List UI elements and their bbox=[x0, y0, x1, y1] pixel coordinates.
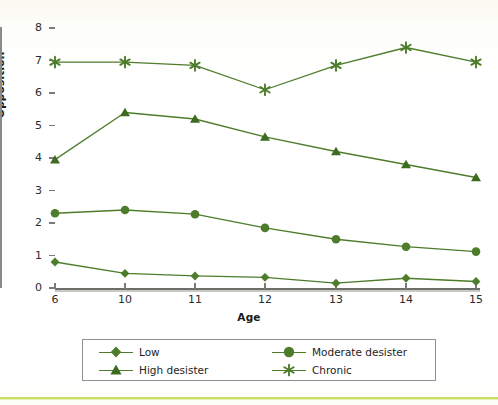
legend-label: Low bbox=[137, 346, 160, 358]
x-tick-label: 11 bbox=[180, 294, 210, 306]
asterisk-marker bbox=[260, 84, 269, 95]
x-axis-line-shadow bbox=[55, 290, 480, 292]
asterisk-marker bbox=[471, 57, 480, 68]
x-tick-label: 14 bbox=[391, 294, 421, 306]
y-tick-mark bbox=[49, 222, 55, 224]
circle-marker bbox=[191, 210, 200, 219]
y-tick-mark bbox=[49, 27, 55, 29]
y-tick-label: 4 bbox=[8, 152, 42, 163]
x-axis-title: Age bbox=[0, 311, 498, 323]
triangle-marker bbox=[50, 155, 60, 164]
diamond-marker bbox=[191, 272, 200, 281]
y-tick-mark bbox=[49, 60, 55, 62]
x-tick-label: 15 bbox=[461, 294, 491, 306]
triangle-marker bbox=[260, 132, 270, 141]
y-tick-label: 0 bbox=[8, 282, 42, 293]
circle-icon bbox=[268, 343, 310, 361]
circle-marker bbox=[472, 247, 481, 256]
circle-marker bbox=[121, 206, 130, 215]
triangle-icon bbox=[95, 361, 137, 379]
legend-label: Chronic bbox=[310, 364, 352, 376]
x-tick-mark bbox=[124, 283, 126, 289]
x-tick-label: 12 bbox=[250, 294, 280, 306]
y-tick-mark bbox=[49, 157, 55, 159]
asterisk-marker bbox=[190, 60, 199, 71]
y-tick-label: 1 bbox=[8, 250, 42, 261]
circle-marker bbox=[261, 224, 270, 233]
x-tick-mark bbox=[405, 283, 407, 289]
circle-marker bbox=[332, 235, 341, 244]
x-tick-mark bbox=[335, 283, 337, 289]
triangle-marker bbox=[401, 160, 411, 169]
x-tick-mark bbox=[54, 283, 56, 289]
legend-label: High desister bbox=[137, 364, 208, 376]
diamond-icon bbox=[95, 343, 137, 361]
y-tick-mark bbox=[49, 125, 55, 127]
y-tick-mark bbox=[49, 92, 55, 94]
x-tick-label: 13 bbox=[321, 294, 351, 306]
legend-item-low[interactable]: Low bbox=[95, 343, 160, 361]
y-tick-label: 7 bbox=[8, 55, 42, 66]
y-tick-label: 3 bbox=[8, 185, 42, 196]
bottom-accent-rule-soft bbox=[0, 399, 498, 400]
y-tick-label: 6 bbox=[8, 87, 42, 98]
x-tick-label: 10 bbox=[110, 294, 140, 306]
chart-page: Opposition 012345678 6101112131415 Age L… bbox=[0, 0, 498, 405]
triangle-marker bbox=[120, 108, 130, 117]
chart-legend: Low Moderate desister High desister bbox=[82, 339, 436, 381]
triangle-marker bbox=[331, 147, 341, 156]
diamond-marker bbox=[121, 269, 130, 278]
asterisk-icon bbox=[268, 361, 310, 379]
y-axis-line bbox=[0, 27, 2, 288]
asterisk-marker bbox=[331, 60, 340, 71]
series-chronic bbox=[50, 42, 480, 95]
x-tick-mark bbox=[264, 283, 266, 289]
y-tick-mark bbox=[49, 255, 55, 257]
y-tick-label: 8 bbox=[8, 22, 42, 33]
x-tick-mark bbox=[194, 283, 196, 289]
triangle-marker bbox=[471, 173, 481, 182]
triangle-marker bbox=[190, 114, 200, 123]
legend-item-chronic[interactable]: Chronic bbox=[268, 361, 352, 379]
diamond-marker bbox=[402, 274, 411, 283]
circle-marker bbox=[402, 242, 411, 251]
legend-item-high-desister[interactable]: High desister bbox=[95, 361, 208, 379]
x-tick-label: 6 bbox=[40, 294, 70, 306]
x-tick-mark bbox=[475, 283, 477, 289]
circle-marker bbox=[51, 209, 60, 218]
y-tick-mark bbox=[49, 190, 55, 192]
diamond-marker bbox=[261, 273, 270, 282]
diamond-marker bbox=[51, 258, 60, 267]
series-moderate-desister bbox=[51, 206, 481, 256]
asterisk-marker bbox=[120, 57, 129, 68]
legend-label: Moderate desister bbox=[310, 346, 407, 358]
series-high-desister bbox=[50, 108, 481, 182]
y-tick-label: 2 bbox=[8, 217, 42, 228]
y-tick-label: 5 bbox=[8, 120, 42, 131]
legend-item-moderate-desister[interactable]: Moderate desister bbox=[268, 343, 407, 361]
asterisk-marker bbox=[50, 57, 59, 68]
asterisk-marker bbox=[401, 42, 410, 53]
